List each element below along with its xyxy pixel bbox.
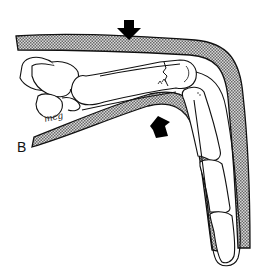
splint-illustration: B mcg [0,0,266,270]
panel-label: B [17,140,26,154]
illustration-svg [0,0,266,270]
proximal-phalanx [183,87,221,160]
volar-pressure-arrow-icon [150,116,170,138]
